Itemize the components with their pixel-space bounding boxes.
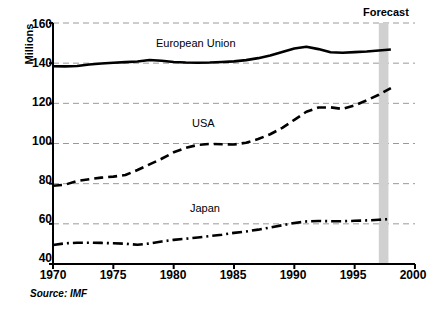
source-note: Source: IMF <box>30 288 87 299</box>
data-series <box>53 47 391 245</box>
series-label-japan: Japan <box>190 202 220 214</box>
x-tick-1970: 1970 <box>31 268 75 282</box>
x-tick-1990: 1990 <box>271 268 315 282</box>
series-label-usa: USA <box>192 117 215 129</box>
x-tick-1980: 1980 <box>151 268 195 282</box>
series-line-japan <box>53 219 391 245</box>
y-tick-80: 80 <box>22 173 52 187</box>
y-tick-100: 100 <box>22 134 52 148</box>
forecast-band <box>379 23 389 264</box>
series-line-usa <box>53 88 391 186</box>
chart-figure: Millions 160 140 120 100 80 60 40 1970 1… <box>0 0 441 311</box>
x-tick-1985: 1985 <box>211 268 255 282</box>
x-tick-2000: 2000 <box>391 268 435 282</box>
series-line-european-union <box>53 47 391 67</box>
y-tick-160: 160 <box>22 17 52 31</box>
x-tick-1995: 1995 <box>331 268 375 282</box>
series-label-european-union: European Union <box>156 37 236 49</box>
forecast-label: Forecast <box>363 6 409 18</box>
y-tick-60: 60 <box>22 212 52 226</box>
y-tick-120: 120 <box>22 95 52 109</box>
x-tick-1975: 1975 <box>91 268 135 282</box>
y-tick-140: 140 <box>22 56 52 70</box>
gridlines <box>53 23 415 224</box>
y-tick-40: 40 <box>22 251 52 265</box>
